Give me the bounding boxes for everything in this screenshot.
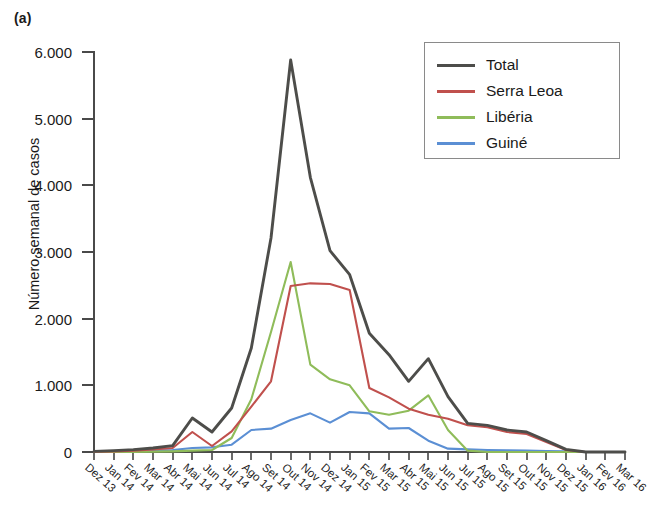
legend-item-libéria[interactable]: Libéria (437, 104, 619, 130)
legend-swatch-icon (437, 116, 475, 119)
legend-item-label: Serra Leoa (486, 83, 563, 99)
legend-item-label: Libéria (486, 109, 533, 125)
legend-swatch-icon (437, 142, 475, 145)
series-line-libéria (94, 262, 625, 452)
legend-item-label: Total (486, 57, 519, 73)
ebola-weekly-cases-chart: (a) Número semanal de casos 01.0002.0003… (0, 0, 649, 520)
legend-item-total[interactable]: Total (437, 52, 619, 78)
legend-item-serra-leoa[interactable]: Serra Leoa (437, 78, 619, 104)
legend-item-guiné[interactable]: Guiné (437, 130, 619, 156)
chart-legend: TotalSerra LeoaLibériaGuiné (424, 42, 620, 159)
legend-swatch-icon (437, 90, 475, 93)
legend-item-label: Guiné (486, 135, 527, 151)
legend-swatch-icon (437, 64, 475, 67)
series-line-serra-leoa (94, 283, 625, 452)
